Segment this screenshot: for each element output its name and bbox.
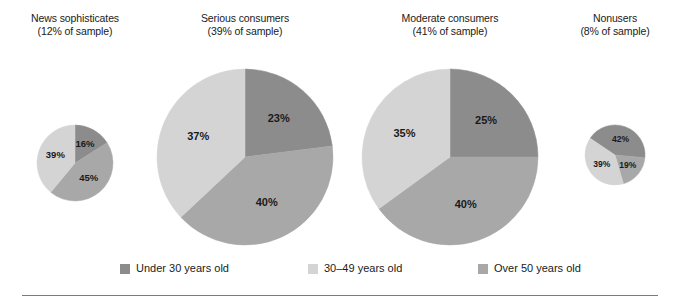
pie-slice-label-nonusers-under30: 42% bbox=[612, 134, 629, 144]
pie-chart-serious-consumers: 23%40%37% bbox=[155, 67, 335, 247]
pie-title-nonusers: Nonusers(8% of sample) bbox=[505, 12, 680, 37]
pie-chart-nonusers: 42%19%39% bbox=[583, 123, 647, 187]
pie-title-serious-consumers: Serious consumers(39% of sample) bbox=[135, 12, 355, 37]
pie-slice-label-news-sophisticates-under30: 16% bbox=[76, 138, 96, 149]
pie-chart-figure: News sophisticates(12% of sample)Serious… bbox=[0, 0, 680, 306]
bottom-divider-rule bbox=[22, 295, 658, 296]
legend-item-1[interactable]: 30–49 years old bbox=[308, 262, 402, 275]
pie-title-group-name: Nonusers bbox=[505, 12, 680, 25]
pie-title-sample-share: (8% of sample) bbox=[505, 25, 680, 38]
legend-item-0[interactable]: Under 30 years old bbox=[120, 262, 229, 275]
pie-slice-label-moderate-consumers-over50: 40% bbox=[455, 198, 477, 210]
pie-chart-news-sophisticates: 16%45%39% bbox=[35, 123, 115, 203]
legend-label-2: Over 50 years old bbox=[494, 262, 581, 275]
pie-slice-label-serious-consumers-age30to49: 37% bbox=[187, 130, 209, 142]
pie-slice-label-serious-consumers-over50: 40% bbox=[256, 196, 278, 208]
legend-label-0: Under 30 years old bbox=[136, 262, 229, 275]
legend-label-1: 30–49 years old bbox=[324, 262, 402, 275]
legend-swatch-icon-0 bbox=[120, 264, 130, 274]
legend-swatch-icon-1 bbox=[308, 264, 318, 274]
pie-title-sample-share: (39% of sample) bbox=[135, 25, 355, 38]
legend-swatch-icon-2 bbox=[478, 264, 488, 274]
pie-slice-label-nonusers-age30to49: 39% bbox=[593, 159, 610, 169]
pie-title-group-name: Serious consumers bbox=[135, 12, 355, 25]
legend-item-2[interactable]: Over 50 years old bbox=[478, 262, 581, 275]
pie-slice-label-serious-consumers-under30: 23% bbox=[268, 112, 290, 124]
chart-legend: Under 30 years old30–49 years oldOver 50… bbox=[0, 262, 680, 278]
pie-chart-moderate-consumers: 25%40%35% bbox=[360, 67, 540, 247]
pie-slice-label-moderate-consumers-age30to49: 35% bbox=[394, 127, 416, 139]
pie-slice-label-moderate-consumers-under30: 25% bbox=[475, 114, 497, 126]
pie-slice-label-news-sophisticates-age30to49: 39% bbox=[46, 149, 66, 160]
pie-slice-label-nonusers-over50: 19% bbox=[619, 160, 636, 170]
pie-slice-label-news-sophisticates-over50: 45% bbox=[79, 172, 99, 183]
